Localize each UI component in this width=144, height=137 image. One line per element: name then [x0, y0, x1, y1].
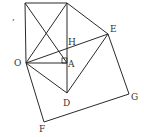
label-d: D — [63, 98, 70, 108]
segment-co — [25, 3, 26, 63]
label-a: A — [67, 59, 75, 69]
segment-gf — [44, 94, 129, 122]
segment-od — [26, 63, 67, 93]
label-o: O — [14, 58, 21, 68]
geometry-diagram: , O A H E D G F — [0, 0, 144, 137]
segment-fo — [26, 63, 44, 122]
diagram-segments — [25, 3, 129, 122]
label-e: E — [110, 24, 117, 34]
segment-eg — [108, 34, 129, 94]
label-g: G — [131, 92, 138, 102]
segment-be — [67, 3, 108, 34]
label-mark: , — [12, 12, 15, 22]
label-f: F — [39, 124, 45, 134]
label-h: H — [68, 37, 76, 47]
